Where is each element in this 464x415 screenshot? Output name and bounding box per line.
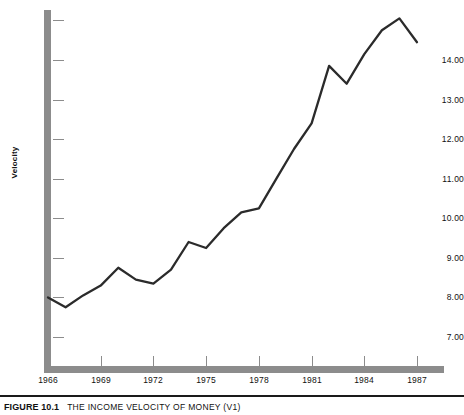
chart-plot-area: Velocity 7.008.009.0010.0011.0012.0013.0…: [0, 0, 464, 415]
caption-divider: [0, 395, 464, 397]
velocity-line-path: [48, 18, 417, 307]
figure-title: THE INCOME VELOCITY OF MONEY (V1): [67, 402, 240, 412]
figure-number: FIGURE 10.1: [4, 402, 59, 412]
figure-caption: FIGURE 10.1THE INCOME VELOCITY OF MONEY …: [4, 402, 460, 412]
figure-container: Velocity 7.008.009.0010.0011.0012.0013.0…: [0, 0, 464, 415]
velocity-line-series: [0, 0, 464, 415]
